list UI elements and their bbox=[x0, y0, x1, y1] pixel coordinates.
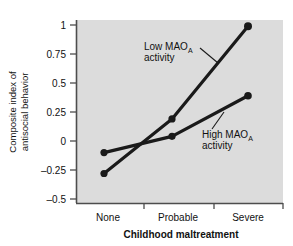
data-point-low-none bbox=[100, 170, 107, 177]
x-axis-title: Childhood maltreatment bbox=[123, 229, 239, 240]
y-axis-title: Composite index of antisocial behavior bbox=[7, 71, 30, 153]
data-point-high-severe bbox=[244, 92, 252, 100]
y-tick-label-neg05: –0.5 bbox=[47, 194, 67, 205]
annotation-high-mao-line2: activity bbox=[202, 140, 233, 151]
y-axis-ticks bbox=[70, 25, 76, 199]
x-category-label-severe: Severe bbox=[232, 212, 264, 223]
annotation-low-mao-subscript: A bbox=[188, 47, 193, 54]
data-point-low-severe bbox=[244, 22, 252, 30]
y-tick-label-075: 0.75 bbox=[47, 49, 67, 60]
y-tick-label-05: 0.5 bbox=[52, 78, 66, 89]
y-tick-label-1: 1 bbox=[60, 20, 66, 31]
y-axis-title-line1: Composite index of bbox=[7, 71, 18, 153]
x-category-label-probable: Probable bbox=[158, 212, 198, 223]
chart-figure: 1 0.75 0.5 0.25 0 –0.25 –0.5 None Probab… bbox=[0, 0, 293, 246]
annotation-low-mao-main: Low MAO bbox=[144, 41, 188, 52]
annotation-high-mao-main: High MAO bbox=[202, 129, 248, 140]
chart-svg: 1 0.75 0.5 0.25 0 –0.25 –0.5 None Probab… bbox=[0, 0, 293, 246]
y-tick-label-0: 0 bbox=[60, 136, 66, 147]
y-tick-label-025: 0.25 bbox=[47, 107, 67, 118]
data-point-low-probable bbox=[168, 115, 175, 122]
data-point-high-none bbox=[100, 149, 107, 156]
annotation-high-mao-subscript: A bbox=[248, 135, 253, 142]
y-axis-title-line2: antisocial behavior bbox=[19, 73, 30, 152]
data-point-high-probable bbox=[168, 133, 175, 140]
annotation-low-mao-line2: activity bbox=[144, 52, 175, 63]
y-tick-label-neg025: –0.25 bbox=[41, 165, 66, 176]
x-category-label-none: None bbox=[96, 212, 120, 223]
